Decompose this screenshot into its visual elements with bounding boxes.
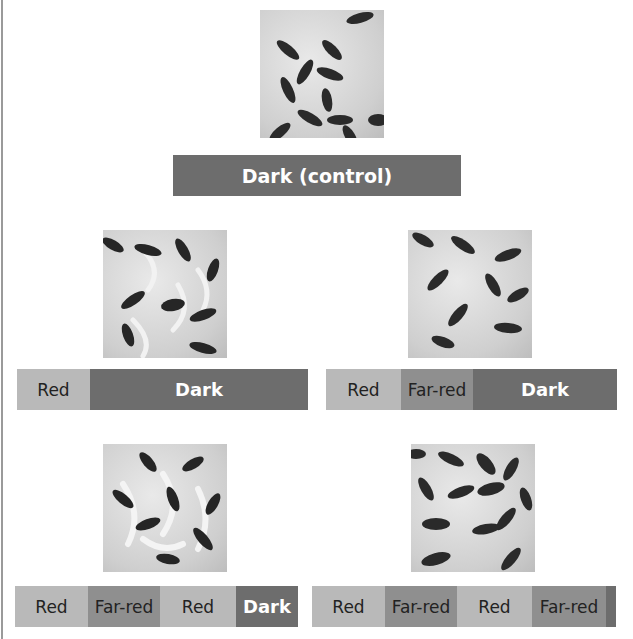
segment-dark-partial bbox=[606, 586, 616, 627]
seed-photo-control bbox=[260, 10, 384, 138]
seeds-germinated-icon bbox=[103, 230, 227, 358]
segment-red: Red bbox=[457, 586, 532, 627]
segment-far-red: Far-red bbox=[401, 369, 473, 410]
seed-photo-red-dark bbox=[103, 230, 227, 358]
segment-red: Red bbox=[312, 586, 385, 627]
segment-red: Red bbox=[326, 369, 401, 410]
seed-photo-red-farred-red-dark bbox=[103, 444, 227, 572]
seeds-germinated-icon bbox=[103, 444, 227, 572]
segment-red: Red bbox=[17, 369, 90, 410]
seeds-icon bbox=[411, 444, 535, 572]
treatment-bar-control: Dark (control) bbox=[173, 155, 461, 196]
treatment-bar-red-dark: Red Dark bbox=[17, 369, 308, 410]
segment-dark: Dark bbox=[90, 369, 308, 410]
seed-photo-red-farred-red-farred bbox=[411, 444, 535, 572]
treatment-bar-red-farred-red-dark: Red Far-red Red Dark bbox=[15, 586, 298, 627]
segment-far-red: Far-red bbox=[88, 586, 160, 627]
segment-far-red: Far-red bbox=[532, 586, 606, 627]
seed-photo-red-farred-dark bbox=[408, 230, 532, 358]
segment-dark-control: Dark (control) bbox=[173, 155, 461, 196]
left-border bbox=[1, 0, 3, 639]
segment-far-red: Far-red bbox=[385, 586, 457, 627]
treatment-bar-red-farred-dark: Red Far-red Dark bbox=[326, 369, 617, 410]
segment-red: Red bbox=[160, 586, 236, 627]
treatment-bar-red-farred-red-farred: Red Far-red Red Far-red bbox=[312, 586, 616, 627]
segment-dark: Dark bbox=[236, 586, 298, 627]
segment-dark: Dark bbox=[473, 369, 617, 410]
segment-red: Red bbox=[15, 586, 88, 627]
seeds-icon bbox=[260, 10, 384, 138]
seeds-icon bbox=[408, 230, 532, 358]
